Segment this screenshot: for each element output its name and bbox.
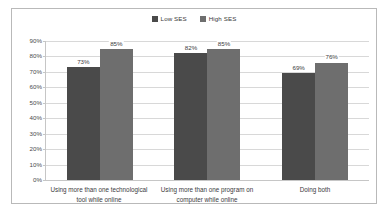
plot-inner: 90%80%70%60%50%40%30%20%10%0% 73%85%82%8… bbox=[45, 41, 369, 181]
bar-low-ses[interactable]: 73% bbox=[67, 67, 100, 180]
y-axis-tick-label: 40% bbox=[30, 115, 42, 121]
x-axis-category-label: Using more than one program on computer … bbox=[153, 185, 261, 205]
y-axis-tick-label: 70% bbox=[30, 69, 42, 75]
bar-low-ses[interactable]: 82% bbox=[174, 53, 207, 180]
bar-value-label: 69% bbox=[291, 65, 305, 71]
legend-swatch-low-ses bbox=[152, 16, 158, 22]
x-axis-category-labels: Using more than one technological tool w… bbox=[45, 185, 369, 205]
x-axis-category-label: Doing both bbox=[261, 185, 369, 205]
y-axis-tick-label: 20% bbox=[30, 146, 42, 152]
legend-swatch-high-ses bbox=[200, 16, 206, 22]
legend-entry-high-ses: High SES bbox=[200, 16, 237, 22]
chart-legend: Low SES High SES bbox=[12, 16, 376, 22]
bar-high-ses[interactable]: 85% bbox=[100, 49, 133, 180]
bar-group: 69%76% bbox=[282, 41, 348, 180]
y-axis-tick-label: 30% bbox=[30, 131, 42, 137]
bar-pair: 69%76% bbox=[282, 41, 348, 180]
y-axis-tick-label: 10% bbox=[30, 161, 42, 167]
y-axis-tick-mark bbox=[43, 180, 46, 181]
y-axis-tick-label: 60% bbox=[30, 84, 42, 90]
y-axis-tick-label: 80% bbox=[30, 53, 42, 59]
bar-high-ses[interactable]: 76% bbox=[315, 63, 348, 180]
bar-value-label: 76% bbox=[324, 54, 338, 60]
plot-area: 90%80%70%60%50%40%30%20%10%0% 73%85%82%8… bbox=[45, 41, 369, 181]
y-axis-tick-label: 90% bbox=[30, 38, 42, 44]
bar-low-ses[interactable]: 69% bbox=[282, 73, 315, 180]
bar-high-ses[interactable]: 85% bbox=[207, 49, 240, 180]
bar-value-label: 85% bbox=[217, 41, 231, 47]
legend-label-high-ses: High SES bbox=[209, 16, 237, 22]
bar-groups: 73%85%82%85%69%76% bbox=[46, 41, 369, 180]
bar-value-label: 85% bbox=[109, 41, 123, 47]
x-axis-category-label: Using more than one technological tool w… bbox=[45, 185, 153, 205]
bar-group: 82%85% bbox=[174, 41, 240, 180]
bar-group: 73%85% bbox=[67, 41, 133, 180]
legend-label-low-ses: Low SES bbox=[161, 16, 187, 22]
bar-value-label: 82% bbox=[184, 45, 198, 51]
legend-entry-low-ses: Low SES bbox=[152, 16, 187, 22]
y-axis-tick-label: 50% bbox=[30, 100, 42, 106]
bar-value-label: 73% bbox=[76, 59, 90, 65]
chart-container: Low SES High SES 90%80%70%60%50%40%30%20… bbox=[11, 8, 377, 204]
y-axis-tick-label: 0% bbox=[33, 177, 42, 183]
bar-pair: 82%85% bbox=[174, 41, 240, 180]
bar-pair: 73%85% bbox=[67, 41, 133, 180]
